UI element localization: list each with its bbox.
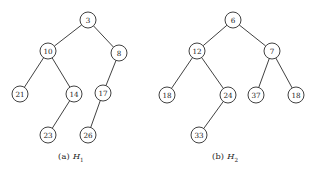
- tree-edge: [239, 25, 265, 46]
- caption-b-tag: (b): [212, 151, 224, 161]
- tree-node[interactable]: 24: [220, 87, 236, 103]
- tree-node[interactable]: 23: [40, 127, 56, 143]
- node-label: 26: [83, 131, 93, 140]
- tree-node[interactable]: 14: [66, 86, 82, 102]
- binary-trees-drawing: 3108211417232661271824371833: [0, 0, 314, 176]
- node-label: 17: [98, 89, 108, 98]
- tree-node[interactable]: 3: [80, 12, 96, 28]
- node-label: 6: [231, 16, 236, 25]
- tree-edge: [24, 58, 43, 88]
- caption-b-subscript: 2: [234, 157, 238, 163]
- tree-edge: [54, 25, 81, 46]
- node-label: 23: [43, 131, 53, 140]
- tree-edge: [276, 58, 292, 88]
- node-label: 24: [223, 91, 233, 100]
- caption-a-tag: (a): [58, 151, 70, 161]
- tree-nodes-panel-b: 61271824371833: [159, 12, 304, 143]
- tree-node[interactable]: 8: [111, 45, 127, 61]
- node-label: 37: [251, 91, 261, 100]
- tree-node[interactable]: 21: [12, 86, 28, 102]
- tree-edge: [203, 25, 227, 46]
- caption-a-name: H: [73, 151, 80, 161]
- caption-panel-b: (b)H2: [212, 151, 238, 163]
- tree-node[interactable]: 37: [248, 87, 264, 103]
- tree-node[interactable]: 26: [80, 127, 96, 143]
- node-label: 7: [270, 47, 275, 56]
- tree-node[interactable]: 7: [264, 43, 280, 59]
- tree-edge: [204, 101, 224, 128]
- node-label: 21: [15, 90, 24, 99]
- tree-edge: [202, 58, 224, 89]
- tree-edge: [91, 101, 101, 128]
- tree-node[interactable]: 6: [225, 12, 241, 28]
- tree-edge: [52, 101, 69, 128]
- node-label: 8: [117, 49, 122, 58]
- node-label: 14: [69, 90, 79, 99]
- tree-edges-panel-b: [172, 25, 293, 129]
- node-label: 12: [192, 47, 201, 56]
- tree-edge: [52, 58, 70, 87]
- tree-nodes-panel-a: 31082114172326: [12, 12, 127, 143]
- node-label: 18: [291, 91, 301, 100]
- tree-edge: [172, 58, 193, 89]
- tree-edge: [259, 59, 270, 88]
- tree-node[interactable]: 10: [40, 43, 56, 59]
- tree-node[interactable]: 17: [95, 85, 111, 101]
- node-label: 18: [162, 91, 172, 100]
- tree-edge: [106, 60, 116, 85]
- tree-node[interactable]: 18: [159, 87, 175, 103]
- caption-panel-a: (a)H1: [58, 151, 84, 163]
- node-label: 33: [194, 131, 204, 140]
- tree-edges-panel-a: [24, 25, 116, 128]
- tree-edge: [93, 26, 113, 47]
- tree-node[interactable]: 18: [288, 87, 304, 103]
- tree-node[interactable]: 12: [189, 43, 205, 59]
- heap-trees-figure: 3108211417232661271824371833 (a)H1 (b)H2: [0, 0, 314, 176]
- tree-node[interactable]: 33: [191, 127, 207, 143]
- caption-a-subscript: 1: [80, 157, 84, 163]
- node-label: 10: [43, 47, 53, 56]
- node-label: 3: [86, 16, 91, 25]
